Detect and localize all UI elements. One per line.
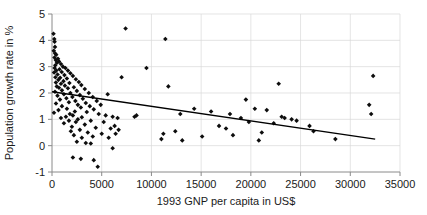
data-point (173, 129, 178, 134)
data-point (76, 103, 81, 108)
y-tick-label: 5 (39, 8, 45, 20)
data-point (72, 133, 77, 138)
x-axis-ticks (52, 172, 400, 176)
data-point (253, 107, 258, 112)
x-axis-tick-labels: 05000100001500020000250003000035000 (49, 178, 415, 190)
data-point (106, 135, 111, 140)
x-tick-label: 30000 (335, 178, 366, 190)
data-point (123, 26, 128, 31)
data-point (79, 83, 84, 88)
data-point (99, 132, 104, 137)
chart-canvas: 05000100001500020000250003000035000 -101… (0, 0, 427, 215)
data-point (101, 120, 106, 125)
data-point (65, 76, 70, 81)
x-tick-label: 5000 (89, 178, 113, 190)
data-point (80, 115, 85, 120)
data-point (67, 100, 72, 105)
data-point (53, 45, 58, 50)
data-point (369, 112, 374, 117)
data-point (84, 101, 89, 106)
x-tick-label: 15000 (186, 178, 217, 190)
x-tick-label: 35000 (385, 178, 416, 190)
data-point (75, 89, 80, 94)
data-point (81, 96, 86, 101)
data-point-group (51, 26, 375, 169)
data-point (60, 88, 65, 93)
y-tick-label: 0 (39, 140, 45, 152)
data-point (55, 93, 60, 98)
data-point (180, 138, 185, 143)
data-point (200, 134, 205, 139)
y-axis-ticks (48, 14, 52, 172)
data-point (90, 134, 95, 139)
y-tick-label: 4 (39, 34, 45, 46)
data-point (64, 96, 69, 101)
y-axis-tick-labels: -1012345 (35, 8, 45, 178)
data-point (66, 86, 71, 91)
y-tick-label: -1 (35, 166, 45, 178)
data-point (77, 80, 82, 85)
data-point (103, 113, 108, 118)
data-point (69, 129, 74, 134)
data-point (112, 124, 117, 129)
data-point (110, 114, 115, 119)
data-point (371, 74, 376, 79)
data-point (94, 99, 99, 104)
data-point (78, 128, 83, 133)
data-point (87, 104, 92, 109)
data-point (231, 133, 236, 138)
data-point (85, 110, 90, 115)
data-point (72, 85, 77, 90)
x-tick-label: 10000 (136, 178, 167, 190)
horizontal-gridlines (52, 14, 400, 146)
data-point (79, 105, 84, 110)
data-point (86, 91, 91, 96)
data-point (217, 124, 222, 129)
data-point (73, 109, 78, 114)
data-point (333, 137, 338, 142)
data-point (91, 158, 96, 163)
data-point (95, 164, 100, 169)
data-point (88, 141, 93, 146)
data-point (307, 124, 312, 129)
data-point (166, 84, 171, 89)
trend-line (52, 92, 375, 139)
data-point (65, 107, 70, 112)
data-point (62, 121, 67, 126)
data-point (84, 141, 89, 146)
data-point (264, 108, 269, 113)
data-point (224, 126, 229, 131)
data-point (80, 135, 85, 140)
data-point (58, 97, 63, 102)
data-point (113, 132, 118, 137)
data-point (93, 125, 98, 130)
data-point (75, 139, 80, 144)
y-tick-label: 2 (39, 87, 45, 99)
data-point (96, 112, 101, 117)
x-tick-label: 0 (49, 178, 55, 190)
data-point (257, 138, 262, 143)
x-tick-label: 20000 (236, 178, 267, 190)
data-point (71, 155, 76, 160)
data-point (209, 109, 214, 114)
data-point (178, 112, 183, 117)
y-tick-label: 1 (39, 113, 45, 125)
y-axis-title: Population growth rate in % (3, 26, 15, 161)
data-point (110, 146, 115, 151)
data-point (73, 99, 78, 104)
data-point (116, 128, 121, 133)
data-point (60, 104, 65, 109)
data-point (64, 114, 69, 119)
scatter-chart: 05000100001500020000250003000035000 -101… (0, 0, 427, 215)
data-point (74, 77, 79, 82)
data-point (228, 112, 233, 117)
data-point (54, 101, 59, 106)
data-point (108, 126, 113, 131)
data-point (161, 132, 166, 137)
y-tick-label: 3 (39, 61, 45, 73)
data-point (192, 107, 197, 112)
data-point (91, 107, 96, 112)
data-point (83, 87, 88, 92)
x-axis-title: 1993 GNP per capita in US$ (157, 195, 296, 207)
data-point (70, 124, 75, 129)
